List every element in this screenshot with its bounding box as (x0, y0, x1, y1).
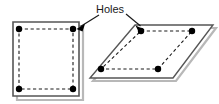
hole-square-top-left (16, 26, 22, 32)
square-plate (13, 22, 83, 100)
arrow-to-square-hole-line (81, 15, 100, 27)
hole-square-top-right (70, 26, 76, 32)
arrow-to-parallelogram-hole-line (126, 14, 141, 26)
hole-parallelogram-top-right (189, 28, 195, 34)
parallelogram-plate (90, 25, 216, 81)
hole-square-bottom-right (70, 86, 76, 92)
hole-parallelogram-bottom-right (155, 66, 161, 72)
holes-diagram: Holes (0, 0, 219, 104)
holes-label: Holes (96, 3, 125, 15)
parallelogram-plate-outline (90, 25, 213, 78)
hole-square-bottom-left (16, 86, 22, 92)
diagram-canvas: Holes (0, 0, 219, 104)
square-plate-outline (13, 22, 79, 96)
hole-parallelogram-bottom-left (98, 66, 104, 72)
